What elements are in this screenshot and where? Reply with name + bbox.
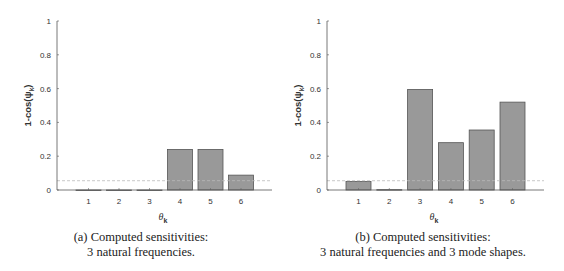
x-tick-label: 5: [479, 197, 484, 206]
y-tick-label: 0: [47, 186, 52, 195]
y-axis-label: 1-cos(ψk): [22, 85, 35, 127]
y-tick-label: 0: [317, 186, 322, 195]
x-tick-label: 1: [356, 197, 361, 206]
y-tick-label: 0.4: [310, 118, 322, 127]
bar-chart-a: 12345600.20.40.60.811-cos(ψk)θk: [0, 0, 282, 230]
bar-4: [168, 149, 193, 190]
x-tick-label: 1: [86, 197, 91, 206]
caption-a-line1: (a) Computed sensitivities:: [0, 230, 282, 245]
y-tick-label: 0.8: [310, 51, 322, 60]
bar-6: [500, 102, 525, 190]
x-tick-label: 6: [510, 197, 515, 206]
x-tick-label: 2: [387, 197, 392, 206]
bar-4: [438, 143, 463, 190]
x-tick-label: 6: [239, 197, 244, 206]
y-tick-label: 1: [47, 17, 52, 26]
y-tick-label: 0.4: [40, 118, 52, 127]
y-tick-label: 0.8: [40, 51, 52, 60]
chart-panel-a: 12345600.20.40.60.811-cos(ψk)θk (a) Comp…: [0, 0, 282, 271]
bar-3: [408, 89, 433, 190]
y-tick-label: 0.2: [310, 152, 322, 161]
y-axis-label: 1-cos(ψk): [292, 85, 305, 127]
caption-a-line2: 3 natural frequencies.: [0, 245, 282, 260]
x-axis-label: θk: [430, 211, 439, 224]
caption-b-line2: 3 natural frequencies and 3 mode shapes.: [282, 245, 564, 260]
x-tick-label: 2: [117, 197, 122, 206]
chart-panel-b: 12345600.20.40.60.811-cos(ψk)θk (b) Comp…: [282, 0, 564, 271]
x-tick-label: 3: [418, 197, 423, 206]
x-tick-label: 5: [208, 197, 213, 206]
x-tick-label: 3: [147, 197, 152, 206]
bar-6: [229, 175, 254, 190]
y-tick-label: 0.6: [40, 85, 52, 94]
x-tick-label: 4: [449, 197, 454, 206]
bar-chart-b: 12345600.20.40.60.811-cos(ψk)θk: [282, 0, 564, 230]
bar-5: [198, 149, 223, 190]
x-tick-label: 4: [178, 197, 183, 206]
y-tick-label: 1: [317, 17, 322, 26]
x-axis-label: θk: [159, 211, 168, 224]
y-tick-label: 0.2: [40, 152, 52, 161]
caption-b-line1: (b) Computed sensitivities:: [282, 230, 564, 245]
y-tick-label: 0.6: [310, 85, 322, 94]
